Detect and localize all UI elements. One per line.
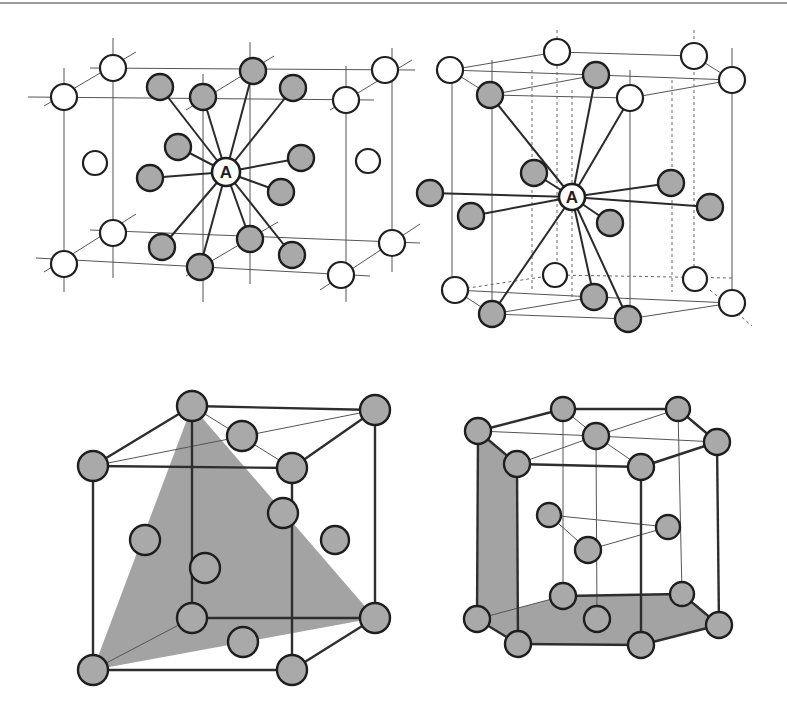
fcc-unit-cell-panel xyxy=(78,391,390,685)
hcp-unit-cell-panel xyxy=(464,397,732,658)
hcp-coordination-panel: A xyxy=(417,30,752,332)
fcc-center-label: A xyxy=(220,163,232,182)
hcp-center-label: A xyxy=(566,188,578,207)
fcc-coordination-panel: A xyxy=(28,38,420,302)
crystal-structures-diagram: A xyxy=(0,0,787,708)
